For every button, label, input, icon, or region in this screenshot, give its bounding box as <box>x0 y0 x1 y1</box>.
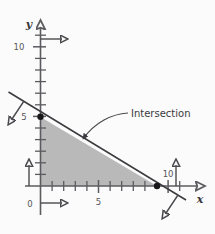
x-tick-label-5: 5 <box>96 197 101 207</box>
y-tick-label-5: 5 <box>21 112 26 122</box>
linear-programming-graph: 10 5 5 10 0 y x Intersection <box>0 0 215 234</box>
y-tick-label-10: 10 <box>14 42 25 52</box>
x-tick-label-10: 10 <box>163 169 174 179</box>
feasible-region-shading <box>41 117 158 186</box>
intersection-label: Intersection <box>131 108 191 119</box>
y-axis-label: y <box>25 18 34 31</box>
y-intercept-vertex-dot <box>37 114 43 120</box>
constraint-direction-arrow-lower <box>166 195 178 213</box>
graph-canvas: 10 5 5 10 0 y x Intersection <box>0 0 215 234</box>
origin-label: 0 <box>27 199 32 209</box>
intersection-leader-line <box>83 113 128 139</box>
x-intercept-vertex-dot <box>154 183 160 189</box>
x-axis-label: x <box>196 193 204 206</box>
